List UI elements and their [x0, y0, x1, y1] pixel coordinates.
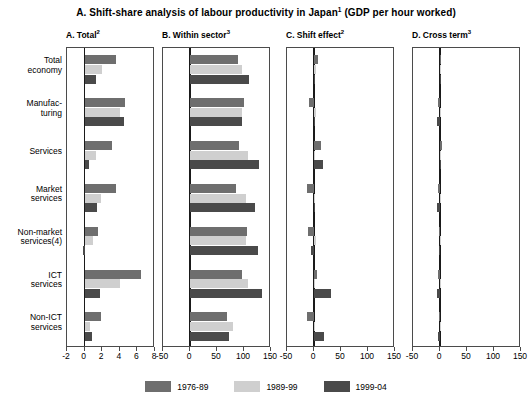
- bar-d-c3-s1: [440, 141, 442, 150]
- bar-b-c2-s1: [190, 98, 244, 107]
- figure-title-tail: (GDP per hour worked): [342, 7, 456, 18]
- panel-d-title: D. Cross term3: [412, 29, 471, 40]
- bar-c-c5-s1: [308, 227, 314, 236]
- bar-b-c4-s3: [190, 203, 255, 212]
- panel-a-plot-area: [66, 47, 154, 347]
- bar-a-c1-s1: [85, 55, 117, 64]
- bar-b-c1-s2: [190, 65, 242, 74]
- category-label-line1: Market: [36, 184, 62, 194]
- panel-title-text: B. Within sector: [162, 30, 227, 40]
- category-label-3: Services: [29, 147, 62, 157]
- category-label-line1: Services: [29, 146, 62, 156]
- category-label-line2: services: [31, 322, 62, 332]
- bar-d-c4-s2: [440, 194, 441, 203]
- panel-c: C. Shift effect2-50050100150: [286, 47, 394, 347]
- x-axis-tick-label: 2: [99, 351, 104, 361]
- bar-b-c5-s3: [190, 246, 258, 255]
- panel-d: D. Cross term3-50050100150: [412, 47, 520, 347]
- bar-d-c6-s1: [438, 270, 440, 279]
- bar-a-c3-s3: [85, 160, 89, 169]
- bar-b-c7-s2: [190, 322, 233, 331]
- category-label-line2: turing: [41, 108, 62, 118]
- bar-a-c2-s2: [85, 108, 120, 117]
- x-axis-tick-label: 0: [311, 351, 316, 361]
- bar-a-c4-s3: [85, 203, 97, 212]
- bar-b-c6-s1: [190, 270, 242, 279]
- figure-title-main: A. Shift-share analysis of labour produc…: [76, 7, 338, 18]
- chart-legend: 1976-891989-991999-04: [0, 381, 532, 392]
- x-axis-tick-label: 0: [81, 351, 86, 361]
- bar-c-c5-s3: [311, 246, 314, 255]
- bar-d-c5-s2: [440, 236, 441, 245]
- bar-a-c1-s3: [85, 75, 96, 84]
- category-label-line2: services: [31, 279, 62, 289]
- bar-b-c3-s1: [190, 141, 239, 150]
- panel-title-text: A. Total: [66, 30, 97, 40]
- category-label-line2: services: [31, 193, 62, 203]
- category-label-line1: Non-market: [18, 227, 62, 237]
- bar-b-c4-s2: [190, 194, 246, 203]
- bar-a-c7-s2: [85, 322, 90, 331]
- panel-c-plot-area: [286, 47, 394, 347]
- x-axis-tick-label: 6: [134, 351, 139, 361]
- bar-d-c2-s3: [437, 117, 440, 126]
- bar-d-c7-s3: [438, 332, 440, 341]
- x-axis-tick-label: 50: [211, 351, 220, 361]
- bar-a-c6-s3: [85, 289, 100, 298]
- category-label-line1: ICT: [48, 270, 62, 280]
- bar-b-c7-s3: [190, 332, 229, 341]
- bar-d-c1-s3: [440, 75, 441, 84]
- bar-b-c3-s3: [190, 160, 259, 169]
- bar-d-c6-s2: [440, 279, 441, 288]
- bar-a-c5-s2: [85, 236, 93, 245]
- panel-b-plot-area: [162, 47, 270, 347]
- panel-b-title: B. Within sector3: [162, 29, 230, 40]
- legend-swatch-2: [234, 381, 260, 392]
- legend-item-2: 1989-99: [234, 381, 297, 392]
- x-axis-tick-label: 50: [461, 351, 470, 361]
- bar-d-c7-s2: [440, 322, 441, 331]
- bar-b-c4-s1: [190, 184, 236, 193]
- panel-title-footnote-marker: 2: [97, 29, 100, 35]
- bar-d-c5-s1: [439, 227, 440, 236]
- category-label-line2: economy: [28, 65, 63, 75]
- x-axis-tick-label: -50: [406, 351, 418, 361]
- bar-a-c2-s3: [85, 117, 125, 126]
- bar-a-c7-s3: [85, 332, 92, 341]
- x-axis-tick-label: 4: [116, 351, 121, 361]
- panel-title-text: D. Cross term: [412, 30, 468, 40]
- panel-title-text: C. Shift effect: [286, 30, 341, 40]
- panel-title-footnote-marker: 3: [468, 29, 471, 35]
- bar-b-c5-s2: [190, 236, 246, 245]
- bar-a-c2-s1: [85, 98, 125, 107]
- bar-c-c7-s2: [314, 322, 315, 331]
- x-axis-tick-label: 0: [437, 351, 442, 361]
- category-label-line1: Manufac-: [27, 98, 62, 108]
- bar-c-c3-s3: [314, 160, 323, 169]
- legend-item-3: 1999-04: [324, 381, 387, 392]
- bar-b-c7-s1: [190, 312, 227, 321]
- panel-d-x-axis: -50050100150: [412, 347, 520, 369]
- bar-c-c1-s3: [314, 75, 315, 84]
- bar-c-c2-s3: [314, 117, 315, 126]
- bar-b-c1-s3: [190, 75, 249, 84]
- bar-d-c4-s3: [437, 203, 440, 212]
- panel-c-x-axis: -50050100150: [286, 347, 394, 369]
- bar-b-c3-s2: [190, 151, 248, 160]
- bar-c-c1-s2: [314, 65, 316, 74]
- bar-d-c1-s1: [440, 55, 441, 64]
- bar-b-c2-s2: [190, 108, 242, 117]
- panel-b-x-axis: -50050100150: [162, 347, 270, 369]
- bar-d-c1-s2: [440, 65, 441, 74]
- bar-d-c4-s1: [438, 184, 440, 193]
- bar-a-c4-s1: [85, 184, 117, 193]
- x-axis-tick-label: -50: [156, 351, 168, 361]
- category-label-line1: Non-ICT: [30, 312, 62, 322]
- bar-a-c6-s2: [85, 279, 120, 288]
- legend-swatch-1: [145, 381, 171, 392]
- bar-b-c6-s2: [190, 279, 248, 288]
- bar-a-c7-s1: [85, 312, 102, 321]
- bar-c-c6-s2: [314, 279, 315, 288]
- bar-c-c6-s3: [314, 289, 331, 298]
- legend-swatch-3: [324, 381, 350, 392]
